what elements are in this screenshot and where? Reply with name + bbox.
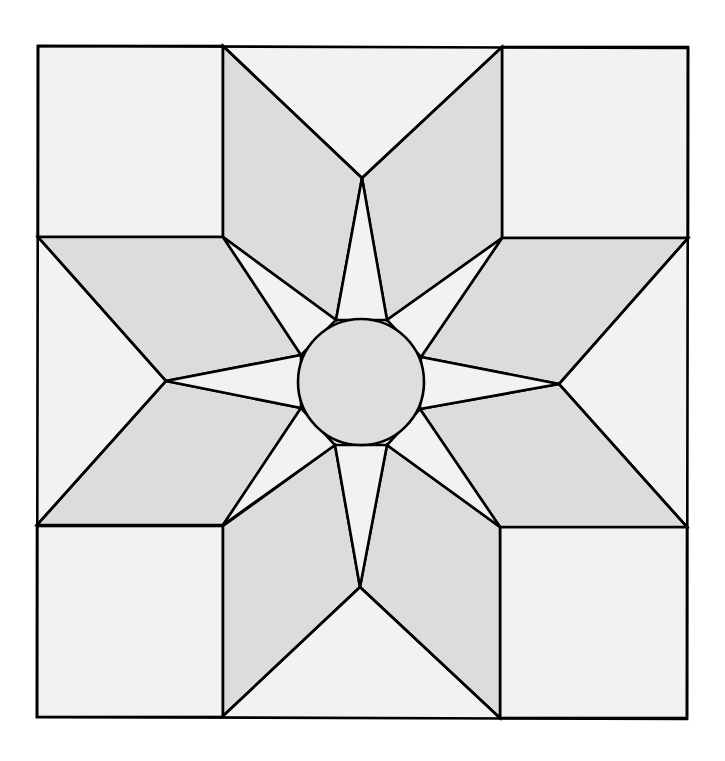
corner-square-bottom-left xyxy=(37,526,223,717)
quilt-block-diagram xyxy=(0,0,725,761)
corner-square-bottom-right xyxy=(500,527,687,718)
corner-square-top-left xyxy=(38,46,223,237)
center-circle xyxy=(298,319,424,445)
corner-square-top-right xyxy=(502,47,688,238)
